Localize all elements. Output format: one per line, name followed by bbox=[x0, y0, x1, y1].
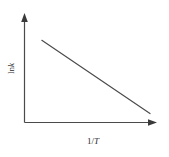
x-axis-arrowhead-icon bbox=[148, 119, 157, 126]
x-axis-label-variable: T bbox=[94, 136, 99, 146]
y-axis-label: lnk bbox=[7, 54, 16, 84]
arrhenius-plot-figure: 1/T lnk bbox=[0, 0, 169, 157]
x-axis-label: 1/T bbox=[80, 137, 106, 146]
data-line-ln-k-vs-inverse-t bbox=[42, 40, 150, 113]
y-axis-arrowhead-icon bbox=[21, 13, 28, 22]
x-axis-label-prefix: 1/ bbox=[87, 136, 94, 146]
plot-canvas bbox=[0, 0, 169, 157]
y-axis-label-variable: k bbox=[6, 63, 16, 67]
y-axis-label-prefix: ln bbox=[6, 67, 16, 74]
